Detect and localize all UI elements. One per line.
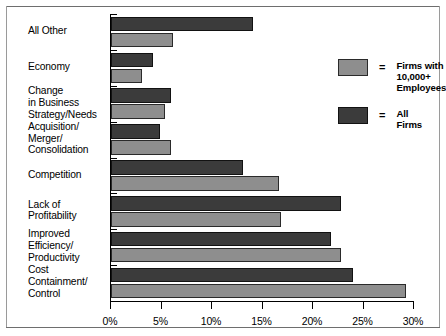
legend-entry: =Firms with 10,000+ Employees <box>338 59 446 93</box>
legend-entry: =All Firms <box>338 107 422 130</box>
bar-all-firms <box>111 196 341 211</box>
value-tick-label: 15% <box>251 315 271 327</box>
frame-top-rule <box>6 6 440 7</box>
category-label: Competition <box>28 169 81 181</box>
bar-large-firms <box>111 284 406 299</box>
value-tick-mark <box>161 302 162 309</box>
bar-large-firms <box>111 212 281 227</box>
bar-all-firms <box>111 124 160 139</box>
category-label: All Other <box>28 25 67 37</box>
category-tick-mark <box>110 265 117 266</box>
bar-large-firms <box>111 104 165 119</box>
value-tick-label: 20% <box>302 315 322 327</box>
frame-right-rule <box>439 6 440 327</box>
frame-left-rule <box>6 6 7 327</box>
value-tick-mark <box>110 302 111 309</box>
bar-large-firms <box>111 140 171 155</box>
legend-label: All Firms <box>396 108 422 130</box>
category-label: Change in Business Strategy/Needs <box>28 85 97 120</box>
bar-large-firms <box>111 176 279 191</box>
frame-bottom-rule <box>6 327 440 328</box>
bar-all-firms <box>111 232 331 247</box>
bar-large-firms <box>111 69 142 84</box>
value-tick-mark <box>262 302 263 309</box>
category-tick-mark <box>110 50 117 51</box>
bar-all-firms <box>111 268 353 283</box>
category-label: Cost Containment/ Control <box>28 264 87 299</box>
value-tick-mark <box>363 302 364 309</box>
legend-swatch-light <box>338 59 368 76</box>
category-tick-mark <box>110 229 117 230</box>
bar-all-firms <box>111 160 243 175</box>
value-tick-label: 5% <box>153 315 168 327</box>
value-tick-mark <box>211 302 212 309</box>
value-tick-label: 0% <box>103 315 118 327</box>
legend-label: Firms with 10,000+ Employees <box>396 60 446 93</box>
bar-large-firms <box>111 33 173 48</box>
chart-page: All OtherEconomyChange in Business Strat… <box>0 0 446 336</box>
legend-equals-sign: = <box>379 61 385 73</box>
category-label: Lack of Profitability <box>28 199 76 223</box>
value-tick-label: 30% <box>403 315 423 327</box>
category-label: Acquisition/ Merger/ Consolidation <box>28 121 88 156</box>
value-tick-mark <box>312 302 313 309</box>
bar-all-firms <box>111 53 153 68</box>
category-tick-mark <box>110 193 117 194</box>
category-tick-mark <box>110 158 117 159</box>
legend-swatch-dark <box>338 107 368 124</box>
category-tick-mark <box>110 86 117 87</box>
value-tick-mark <box>413 302 414 309</box>
category-tick-mark <box>110 14 117 15</box>
category-label: Improved Efficiency/ Productivity <box>28 228 79 263</box>
category-label: Economy <box>28 61 70 73</box>
legend-equals-sign: = <box>379 109 385 121</box>
bar-large-firms <box>111 248 341 263</box>
bar-all-firms <box>111 88 171 103</box>
value-tick-label: 10% <box>201 315 221 327</box>
bar-all-firms <box>111 17 253 32</box>
value-tick-label: 25% <box>352 315 372 327</box>
category-tick-mark <box>110 122 117 123</box>
plot-area: 0%5%10%15%20%25%30% =Firms with 10,000+ … <box>110 14 414 301</box>
